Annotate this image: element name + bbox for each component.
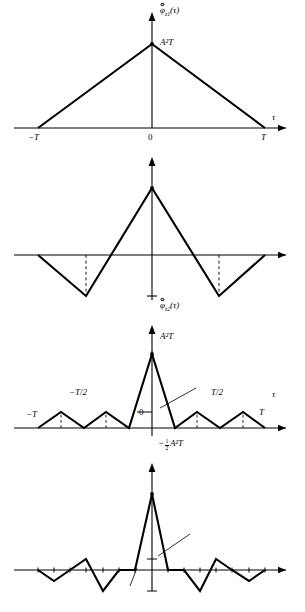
x-axis: [14, 252, 286, 258]
xtick-label-T-phi-z1: T: [261, 133, 266, 142]
xtick-label-neg-T-phi-z1: −T: [28, 133, 39, 142]
y-axis: [149, 325, 156, 436]
axis-label-phi-z2: φz2(τ): [160, 301, 179, 310]
x-axis: [14, 125, 286, 131]
plot-phi-z2: [0, 150, 305, 318]
plot-phi-z1: [0, 0, 305, 150]
y-axis: [149, 463, 156, 591]
x-axis: [14, 425, 286, 431]
plot-phi-z4: [0, 458, 305, 612]
y-axis: [149, 157, 156, 300]
peak-label-phi-z1: A²T: [160, 38, 173, 47]
xtick-label-zero-phi-z1: 0: [148, 133, 153, 142]
y-axis: [149, 12, 156, 128]
panel-phi-z3: φz3(τ) A²T 15A²T τ −T −4T/5 −3T/5 −2T/5 …: [0, 318, 305, 458]
panel-phi-z2: φz2(τ) A²T τ −T −T/2 0 T/2 T −12A²T: [0, 150, 305, 318]
axis-label-phi-z1: φz1(τ): [160, 6, 179, 15]
panel-phi-z4: φz4(τ) A²T 17A²T τ −T −T/7 0 T/7 T −172A…: [0, 458, 305, 612]
figure-autocorrelation-panels: φz1(τ) A²T τ −T 0 T: [0, 0, 305, 612]
x-axis: [14, 567, 286, 573]
x-axis-symbol-phi-z1: τ: [272, 113, 275, 122]
plot-phi-z3: [0, 318, 305, 458]
panel-phi-z1: φz1(τ) A²T τ −T 0 T: [0, 0, 305, 150]
